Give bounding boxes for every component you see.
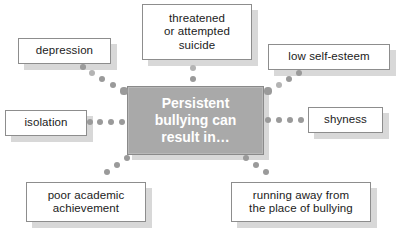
node-shyness[interactable]: shyness (308, 107, 383, 133)
hub-node[interactable]: Persistentbullying canresult in… (127, 86, 264, 155)
node-label-line: shyness (324, 113, 367, 125)
connector-dot (298, 117, 304, 123)
connector-dot (114, 162, 120, 168)
node-depression[interactable]: depression (18, 38, 111, 64)
connector-dot (264, 87, 271, 94)
node-label-line: bullying can (155, 112, 237, 128)
connector-dot (265, 117, 272, 124)
connector-dot (119, 119, 126, 126)
connector-dot (110, 82, 117, 89)
node-label: threatenedor attemptedsuicide (164, 12, 230, 53)
connector-dot (97, 119, 103, 125)
node-label: depression (36, 44, 93, 58)
bullying-consequences-diagram: threatenedor attemptedsuicidedepressionl… (0, 0, 403, 240)
node-label-line: depression (36, 44, 93, 56)
node-label-line: suicide (179, 39, 216, 51)
connector-dot (120, 87, 127, 94)
node-running-away-from-the-place-of-bullying[interactable]: running away fromthe place of bullying (231, 182, 371, 222)
connector-dot (276, 117, 282, 123)
node-label-line: the place of bullying (249, 202, 353, 214)
connector-dot (104, 169, 110, 175)
connector-dot (276, 82, 282, 88)
node-label-line: result in… (161, 129, 229, 145)
node-label-line: achievement (53, 202, 119, 214)
connector-dot (124, 155, 131, 162)
node-label-line: poor academic (48, 189, 125, 201)
node-poor-academic-achievement[interactable]: poor academicachievement (26, 182, 146, 222)
node-label-line: low self-esteem (288, 50, 369, 62)
node-label-line: Persistent (162, 95, 230, 111)
connector-dot (87, 119, 93, 125)
node-label-line: isolation (24, 116, 67, 128)
node-label-line: or attempted (164, 25, 230, 37)
connector-dot (108, 119, 114, 125)
connector-dot (287, 117, 293, 123)
node-label-line: running away from (253, 189, 349, 201)
node-threatened-or-attempted-suicide[interactable]: threatenedor attemptedsuicide (142, 4, 252, 60)
node-label: shyness (324, 113, 367, 127)
connector-dot (190, 76, 196, 82)
connector-dot (89, 70, 95, 76)
connector-dot (296, 70, 302, 76)
node-label: poor academicachievement (48, 189, 125, 216)
node-label: running away fromthe place of bullying (249, 189, 353, 216)
hub-label: Persistentbullying canresult in… (128, 87, 263, 154)
node-label: low self-esteem (288, 50, 369, 64)
connector-dot (286, 76, 292, 82)
node-low-self-esteem[interactable]: low self-esteem (268, 44, 390, 70)
connector-dot (253, 162, 259, 168)
node-isolation[interactable]: isolation (5, 110, 87, 136)
connector-dot (263, 169, 269, 175)
node-label: isolation (24, 116, 67, 130)
connector-dot (190, 65, 196, 71)
connector-dot (99, 76, 105, 82)
connector-dot (80, 64, 86, 70)
connector-dot (243, 155, 250, 162)
node-label-line: threatened (169, 12, 225, 24)
